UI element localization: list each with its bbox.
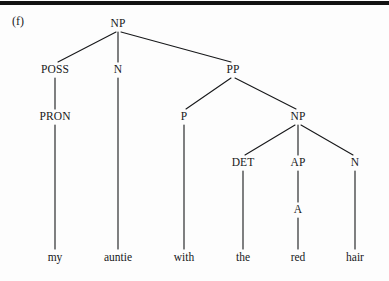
syntax-tree-figure: (f) NPPOSSNPPPRONPNPDETAPNA myauntiewith… bbox=[0, 0, 389, 281]
tree-edge bbox=[121, 32, 231, 62]
tree-edge bbox=[245, 125, 295, 155]
tree-leaf-leaf-red: red bbox=[291, 252, 306, 264]
tree-node-pron: PRON bbox=[39, 111, 70, 123]
tree-edge bbox=[301, 125, 353, 155]
tree-node-poss: POSS bbox=[41, 64, 69, 76]
tree-leaf-leaf-my: my bbox=[48, 252, 63, 264]
tree-node-p: P bbox=[181, 111, 188, 123]
tree-node-pp: PP bbox=[227, 64, 240, 76]
tree-leaf-leaf-hair: hair bbox=[346, 252, 364, 264]
tree-node-n-head: N bbox=[114, 64, 122, 76]
tree-node-np-root: NP bbox=[111, 18, 126, 30]
tree-branch-lines bbox=[0, 0, 389, 281]
tree-edge bbox=[235, 78, 296, 109]
tree-leaf-leaf-the: the bbox=[236, 252, 250, 264]
tree-edge bbox=[58, 32, 116, 62]
tree-node-n-hair: N bbox=[351, 157, 359, 169]
tree-node-np-inner: NP bbox=[291, 111, 306, 123]
tree-node-det: DET bbox=[232, 157, 255, 169]
tree-leaf-leaf-auntie: auntie bbox=[104, 252, 132, 264]
tree-leaf-leaf-with: with bbox=[174, 252, 194, 264]
tree-edge bbox=[186, 78, 231, 109]
tree-node-a: A bbox=[294, 204, 302, 216]
tree-node-ap: AP bbox=[291, 157, 306, 169]
